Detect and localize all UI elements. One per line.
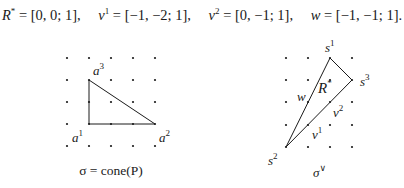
label-s3: s3 (360, 72, 370, 89)
label-a3: a3 (93, 61, 105, 78)
label-a1: a1 (72, 128, 83, 145)
label-v2: v2 (333, 103, 343, 120)
polytope-triangle (89, 80, 155, 124)
label-v1: v1 (312, 125, 322, 142)
label-r-star: R* (317, 78, 332, 96)
left-caption: σ = cone(P) (79, 163, 143, 178)
figures: a3 a1 a2 σ = cone(P) s1 s3 s2 R* w v2 v1… (0, 0, 404, 188)
label-a2: a2 (159, 128, 170, 145)
label-w: w (297, 89, 306, 104)
right-caption: σ∨ (313, 163, 326, 180)
label-s2: s2 (268, 151, 278, 168)
right-figure: s1 s3 s2 R* w v2 v1 σ∨ (268, 38, 370, 180)
left-figure: a3 a1 a2 σ = cone(P) (66, 57, 170, 178)
label-s1: s1 (325, 38, 335, 55)
